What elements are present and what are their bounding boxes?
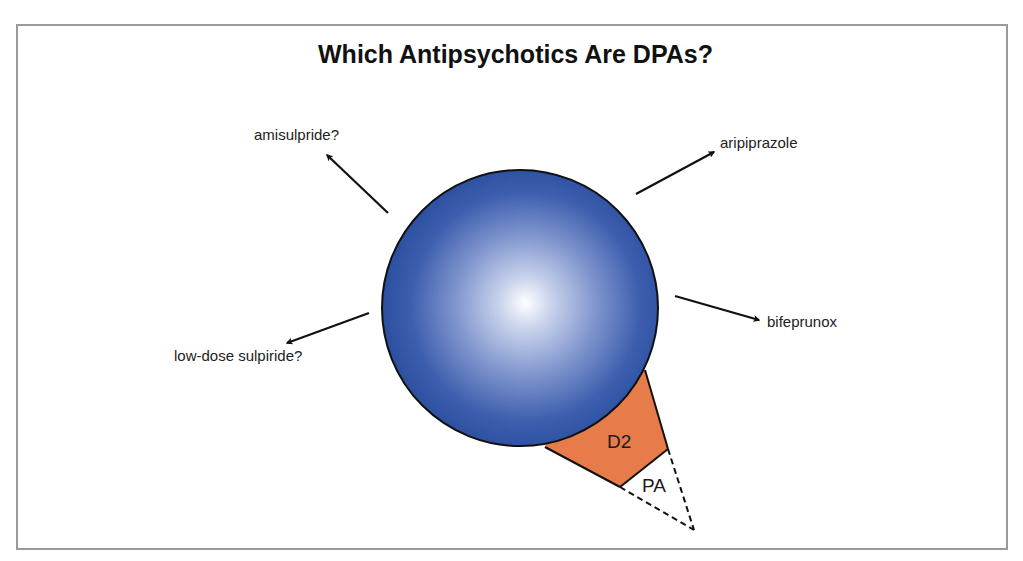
label-d2: D2 bbox=[607, 431, 631, 453]
drug-sphere bbox=[382, 170, 658, 446]
label-low-dose-sulpiride: low-dose sulpiride? bbox=[174, 347, 302, 364]
diagram-canvas bbox=[0, 0, 1023, 561]
label-aripiprazole: aripiprazole bbox=[720, 134, 798, 151]
label-pa: PA bbox=[642, 475, 666, 497]
arrow-amisulpride bbox=[327, 155, 388, 213]
label-bifeprunox: bifeprunox bbox=[767, 313, 837, 330]
arrow-aripiprazole bbox=[636, 152, 714, 194]
arrow-low-dose-sulpiride bbox=[287, 313, 369, 343]
arrow-bifeprunox bbox=[675, 296, 759, 320]
label-amisulpride: amisulpride? bbox=[254, 126, 339, 143]
diagram-title: Which Antipsychotics Are DPAs? bbox=[0, 40, 1023, 69]
